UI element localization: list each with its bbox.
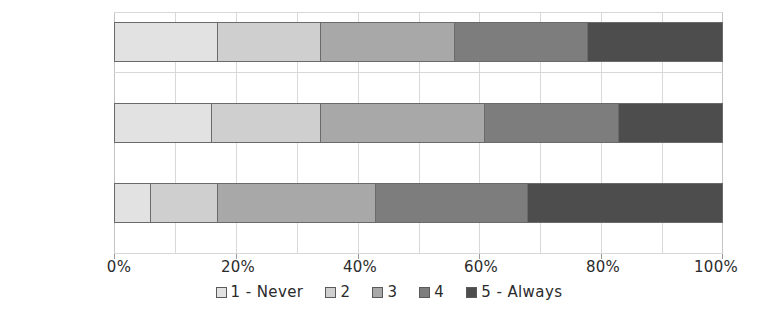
gridline-horizontal-top <box>114 12 723 13</box>
legend-swatch-5-icon <box>466 287 477 298</box>
legend-item-3[interactable]: 3 <box>372 283 397 301</box>
legend-swatch-3-icon <box>372 287 383 298</box>
gridline-horizontal-1 <box>114 72 723 73</box>
bar-row-wp: WP <box>114 22 723 62</box>
xtick-label-20: 20% <box>198 258 278 276</box>
legend-label-1: 1 - Never <box>231 283 304 301</box>
legend-item-1[interactable]: 1 - Never <box>216 283 304 301</box>
bar-row-cms: CMS <box>114 103 723 143</box>
legend-label-5: 5 - Always <box>481 283 562 301</box>
chart-legend: 1 - Never 2 3 4 5 - Always <box>0 283 778 301</box>
bar-segment-other-1 <box>115 184 151 222</box>
bar-segment-wp-3 <box>321 23 455 61</box>
legend-label-3: 3 <box>387 283 397 301</box>
bar-segment-wp-4 <box>455 23 589 61</box>
legend-item-2[interactable]: 2 <box>325 283 350 301</box>
bar-segment-other-2 <box>151 184 218 222</box>
legend-swatch-2-icon <box>325 287 336 298</box>
bar-segment-cms-5 <box>619 104 722 142</box>
legend-label-2: 2 <box>340 283 350 301</box>
bar-segment-other-4 <box>376 184 528 222</box>
bar-segment-cms-3 <box>321 104 485 142</box>
stacked-bar-wp <box>114 22 723 62</box>
bar-segment-wp-1 <box>115 23 218 61</box>
bar-segment-cms-4 <box>485 104 619 142</box>
xtick-label-40: 40% <box>320 258 400 276</box>
xtick-label-80: 80% <box>563 258 643 276</box>
legend-swatch-1-icon <box>216 287 227 298</box>
bar-row-other: Other <box>114 183 723 223</box>
xtick-label-60: 60% <box>441 258 521 276</box>
xtick-label-0: 0% <box>79 258 159 276</box>
legend-item-5[interactable]: 5 - Always <box>466 283 562 301</box>
plot-area: WP CMS Other <box>114 12 723 254</box>
xtick-label-100: 100% <box>676 258 756 276</box>
bar-segment-other-5 <box>528 184 722 222</box>
bar-segment-cms-1 <box>115 104 212 142</box>
stacked-bar-chart: WP CMS Other <box>0 0 778 317</box>
bar-segment-other-3 <box>218 184 376 222</box>
stacked-bar-cms <box>114 103 723 143</box>
legend-swatch-4-icon <box>419 287 430 298</box>
legend-label-4: 4 <box>434 283 444 301</box>
legend-item-4[interactable]: 4 <box>419 283 444 301</box>
bar-segment-wp-2 <box>218 23 321 61</box>
stacked-bar-other <box>114 183 723 223</box>
gridline-horizontal-bottom <box>114 253 723 254</box>
bar-segment-wp-5 <box>588 23 722 61</box>
bar-segment-cms-2 <box>212 104 321 142</box>
